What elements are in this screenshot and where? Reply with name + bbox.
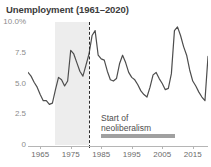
y-axis: 10.0%7.55.02.50: [0, 22, 26, 145]
x-tick-label: 1965: [31, 150, 49, 159]
page-title: Unemployment (1961–2020): [6, 4, 129, 15]
annotation-underline-bar: [101, 134, 175, 138]
y-tick-label: 0: [0, 140, 26, 149]
y-tick-label: 7.5: [0, 48, 26, 57]
unemployment-chart: Unemployment (1961–2020) 10.0%7.55.02.50…: [0, 0, 211, 167]
x-tick-mark: [162, 146, 163, 149]
x-tick-label: 1985: [92, 150, 110, 159]
x-tick-mark: [132, 146, 133, 149]
x-tick-mark: [101, 146, 102, 149]
event-marker-dashed-line: [89, 22, 90, 148]
x-tick-label: 2005: [153, 150, 171, 159]
y-tick-label: 10.0%: [0, 17, 26, 26]
x-tick-label: 1975: [62, 150, 80, 159]
annotation-line-2: neoliberalism: [101, 123, 205, 133]
annotation-line-1: Start of: [101, 113, 205, 123]
annotation: Start of neoliberalism: [101, 113, 205, 138]
x-tick-mark: [40, 146, 41, 149]
x-tick-mark: [71, 146, 72, 149]
x-axis-line: [28, 146, 208, 147]
y-tick-label: 5.0: [0, 79, 26, 88]
x-tick-label: 2015: [184, 150, 202, 159]
y-tick-label: 2.5: [0, 109, 26, 118]
x-axis: 196519751985199520052015: [28, 150, 208, 164]
x-tick-label: 1995: [123, 150, 141, 159]
x-tick-mark: [193, 146, 194, 149]
